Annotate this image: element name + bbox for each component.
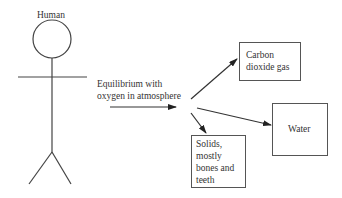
carbon-dioxide-box: Carbon dioxide gas	[239, 42, 301, 81]
carbon-dioxide-line2: dioxide gas	[246, 61, 290, 73]
carbon-dioxide-line1: Carbon	[246, 49, 274, 61]
solids-line1: Solids,	[196, 138, 222, 150]
water-label: Water	[288, 123, 310, 135]
process-label-line1: Equilibrium with	[97, 78, 162, 90]
arrow-to-water	[197, 108, 271, 125]
solids-line3: bones and	[196, 162, 234, 174]
arrow-to-carbon-dioxide	[191, 59, 237, 99]
solids-line2: mostly	[196, 150, 222, 162]
human-label: Human	[37, 9, 65, 21]
solids-line4: teeth	[196, 174, 214, 186]
arrow-to-solids	[191, 113, 206, 133]
process-label-line2: oxygen in atmosphere	[97, 90, 181, 102]
water-box: Water	[272, 103, 328, 156]
human-left-leg	[29, 152, 52, 184]
stick-figure-human	[18, 20, 87, 184]
human-head	[33, 20, 71, 58]
solids-box: Solids, mostly bones and teeth	[191, 135, 246, 188]
human-right-leg	[52, 152, 71, 184]
